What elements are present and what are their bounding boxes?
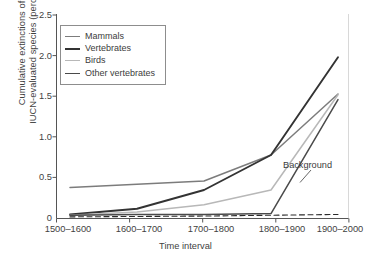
x-tick-1900-2000: 1900–2000 xyxy=(317,224,364,234)
legend-item-birds: Birds xyxy=(65,55,160,67)
legend-item-mammals: Mammals xyxy=(65,30,160,42)
legend-swatch-mammals xyxy=(65,36,80,37)
x-tick-1600-1700: 1600–1700 xyxy=(116,224,163,234)
x-tick-1800-1900: 1800–1900 xyxy=(259,224,306,234)
series-line-mammals xyxy=(70,94,338,188)
chart-legend: Mammals Vertebrates Birds Other vertebra… xyxy=(60,25,166,85)
legend-item-vertebrates: Vertebrates xyxy=(65,42,160,54)
legend-label-vertebrates: Vertebrates xyxy=(85,44,131,53)
y-tick-marks xyxy=(53,15,57,177)
x-axis-tick-labels: 1500–1600 1600–1700 1700–1800 1800–1900 … xyxy=(0,224,371,240)
x-tick-1500-1600: 1500–1600 xyxy=(45,224,92,234)
background-annotation-label: Background xyxy=(283,160,332,170)
legend-label-birds: Birds xyxy=(85,56,106,65)
legend-swatch-other-vertebrates xyxy=(65,73,80,74)
legend-item-other-vertebrates: Other vertebrates xyxy=(65,67,160,79)
x-tick-marks xyxy=(57,219,349,223)
series-line-birds xyxy=(70,95,338,215)
legend-swatch-birds xyxy=(65,60,80,61)
legend-label-other-vertebrates: Other vertebrates xyxy=(85,69,155,78)
legend-label-mammals: Mammals xyxy=(85,32,124,41)
plot-area xyxy=(0,0,371,260)
legend-swatch-vertebrates xyxy=(65,48,80,50)
background-leader-line xyxy=(300,170,311,183)
x-tick-1700-1800: 1700–1800 xyxy=(188,224,235,234)
x-axis-title: Time interval xyxy=(0,241,371,251)
chart-figure: Cumulative extinctions of IUCN-evaluated… xyxy=(0,0,371,260)
